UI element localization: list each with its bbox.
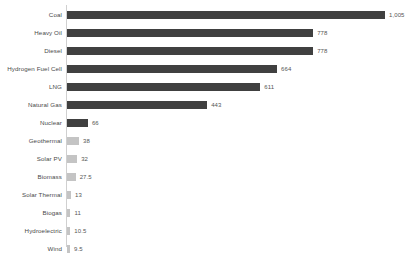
category-label: Nuclear (40, 114, 62, 132)
bar (67, 227, 70, 235)
bar-row: Diesel778 (0, 42, 419, 60)
bar-value-label: 778 (317, 42, 327, 60)
bar-track: 778 (67, 24, 419, 42)
bar-row: LNG611 (0, 78, 419, 96)
category-label: Biomass (38, 168, 62, 186)
bar-row-list: Coal1,005Heavy Oil778Diesel778Hydrogen F… (0, 6, 419, 255)
bar (67, 11, 385, 19)
bar (67, 191, 71, 199)
bar (67, 119, 88, 127)
bar-track: 9.5 (67, 240, 419, 255)
bar-row: Heavy Oil778 (0, 24, 419, 42)
bar-value-label: 10.5 (74, 222, 86, 240)
bar (67, 245, 70, 253)
category-label: Hydrogen Fuel Cell (7, 60, 62, 78)
bar-row: Biogas11 (0, 204, 419, 222)
bar-chart: Coal1,005Heavy Oil778Diesel778Hydrogen F… (0, 0, 419, 255)
bar-value-label: 664 (281, 60, 291, 78)
bar (67, 155, 77, 163)
bar-track: 13 (67, 186, 419, 204)
bar-track: 38 (67, 132, 419, 150)
bar-track: 664 (67, 60, 419, 78)
bar (67, 209, 70, 217)
bar-row: Wind9.5 (0, 240, 419, 255)
bar-track: 1,005 (67, 6, 419, 24)
bar-track: 443 (67, 96, 419, 114)
bar (67, 173, 76, 181)
bar (67, 83, 260, 91)
category-label: Diesel (44, 42, 62, 60)
category-label: Wind (48, 240, 63, 255)
bar (67, 137, 79, 145)
category-label: Solar Thermal (22, 186, 62, 204)
bar (67, 101, 207, 109)
bar-value-label: 32 (81, 150, 88, 168)
category-label: Geothermal (29, 132, 62, 150)
category-label: Biogas (42, 204, 62, 222)
bar (67, 65, 277, 73)
bar-row: Solar PV32 (0, 150, 419, 168)
bar-value-label: 778 (317, 24, 327, 42)
plot-area: Coal1,005Heavy Oil778Diesel778Hydrogen F… (0, 0, 419, 255)
bar (67, 29, 313, 37)
bar-track: 27.5 (67, 168, 419, 186)
bar-value-label: 66 (92, 114, 99, 132)
bar-value-label: 27.5 (80, 168, 92, 186)
bar-row: Coal1,005 (0, 6, 419, 24)
bar-row: Solar Thermal13 (0, 186, 419, 204)
bar-track: 11 (67, 204, 419, 222)
bar-track: 778 (67, 42, 419, 60)
category-label: Heavy Oil (34, 24, 62, 42)
bar-track: 32 (67, 150, 419, 168)
bar-row: Nuclear66 (0, 114, 419, 132)
bar-value-label: 611 (264, 78, 274, 96)
category-label: Natural Gas (28, 96, 62, 114)
bar-track: 10.5 (67, 222, 419, 240)
bar-track: 611 (67, 78, 419, 96)
category-label: LNG (49, 78, 62, 96)
bar-row: Geothermal38 (0, 132, 419, 150)
bar-value-label: 9.5 (74, 240, 83, 255)
bar-value-label: 38 (83, 132, 90, 150)
bar-value-label: 1,005 (389, 6, 405, 24)
bar-row: Hydroelectric10.5 (0, 222, 419, 240)
bar-value-label: 443 (211, 96, 221, 114)
category-label: Hydroelectric (25, 222, 62, 240)
bar-row: Natural Gas443 (0, 96, 419, 114)
bar-row: Biomass27.5 (0, 168, 419, 186)
bar-value-label: 13 (75, 186, 82, 204)
category-label: Solar PV (37, 150, 62, 168)
bar-value-label: 11 (74, 204, 80, 222)
bar-track: 66 (67, 114, 419, 132)
bar (67, 47, 313, 55)
category-label: Coal (49, 6, 62, 24)
bar-row: Hydrogen Fuel Cell664 (0, 60, 419, 78)
